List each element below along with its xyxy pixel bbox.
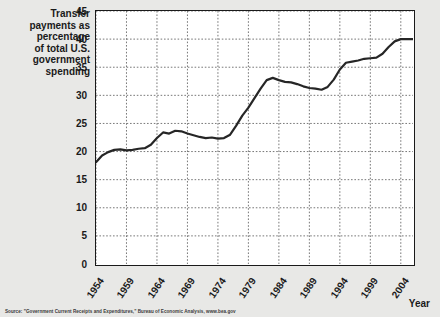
- x-tick-label: 1959: [109, 276, 137, 310]
- x-tick-label: 2004: [383, 276, 411, 310]
- x-tick-label: 1989: [292, 276, 320, 310]
- y-tick-label: 15: [47, 175, 87, 185]
- y-tick-label: 30: [47, 91, 87, 101]
- plot-inner: [96, 11, 414, 265]
- y-tick-label: 40: [47, 35, 87, 45]
- x-tick-label: 1994: [322, 276, 350, 310]
- y-tick-label: 25: [47, 119, 87, 129]
- y-tick-label: 35: [47, 63, 87, 73]
- x-tick-label: 1984: [261, 276, 289, 310]
- y-tick-label: 0: [47, 260, 87, 270]
- x-tick-label: 1964: [139, 276, 167, 310]
- x-tick-label: 1969: [170, 276, 198, 310]
- x-tick-label: 1974: [200, 276, 228, 310]
- y-tick-label: 20: [47, 147, 87, 157]
- y-tick-label: 10: [47, 203, 87, 213]
- source-note: Source: "Government Current Receipts and…: [5, 309, 236, 314]
- y-tick-label: 5: [47, 231, 87, 241]
- x-tick-label: 1954: [78, 276, 106, 310]
- plot-area: [95, 10, 415, 266]
- data-line: [96, 39, 413, 162]
- y-tick-label: 45: [47, 7, 87, 17]
- x-tick-label: 1999: [353, 276, 381, 310]
- chart-canvas: [96, 11, 413, 264]
- chart-figure: Transfer payments as percentage of total…: [0, 0, 440, 317]
- x-tick-label: 1979: [231, 276, 259, 310]
- x-axis-title: Year: [409, 298, 430, 309]
